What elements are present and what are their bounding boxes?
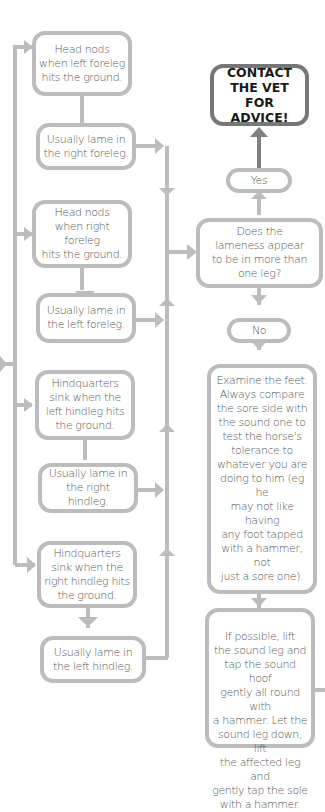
question-box-multiple-legs: Does the lameness appear to be in more t… — [196, 218, 323, 288]
examine-feet-box: Examine the feet. Always compare the sor… — [207, 364, 317, 594]
result-box-right-foreleg: Usually lame in the right foreleg. — [36, 123, 136, 170]
yes-label: Yes — [226, 168, 292, 193]
observation-box-left-hindleg: Hindquarters sink when the left hindleg … — [35, 370, 135, 440]
observation-box-right-hindleg: Hindquarters sink when the right hindleg… — [37, 541, 137, 608]
observation-box-right-foreleg: Head nods when right foreleg hits the gr… — [32, 200, 132, 268]
result-box-left-hindleg: Usually lame in the left hindleg. — [40, 636, 146, 683]
hoof-tap-test-box: If possible, lift the sound leg and tap … — [205, 608, 315, 748]
observation-box-left-foreleg: Head nods when left foreleg hits the gro… — [32, 31, 132, 96]
contact-vet-box: CONTACT THE VET FOR ADVICE! — [210, 64, 309, 126]
result-box-right-hindleg: Usually lame in the right hindleg. — [38, 463, 138, 513]
result-box-left-foreleg: Usually lame in the left foreleg. — [36, 293, 136, 343]
no-label: No — [227, 318, 291, 343]
